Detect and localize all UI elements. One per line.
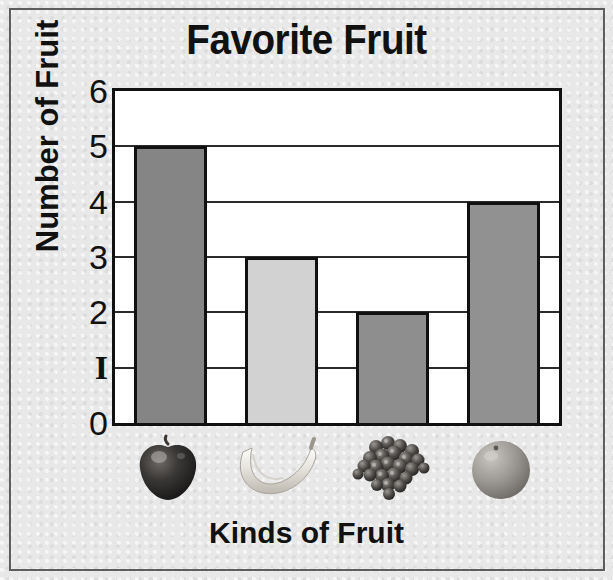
fruit-icon-cell-apple — [112, 428, 223, 508]
banana-icon — [231, 436, 327, 500]
fruit-icon-cell-grapes — [334, 428, 445, 508]
bar-orange — [467, 202, 541, 423]
fruit-icon-cell-banana — [223, 428, 334, 508]
orange-icon — [465, 432, 537, 504]
bar-chart-figure: Favorite Fruit Number of Fruit 65432I0 — [0, 0, 613, 580]
bar-grapes — [356, 312, 430, 423]
x-axis-title: Kinds of Fruit — [0, 516, 613, 550]
fruit-icon-cell-orange — [445, 428, 556, 508]
y-tick-label-2: 2 — [62, 295, 108, 329]
x-axis-fruit-icons — [112, 428, 562, 508]
y-axis-tick-labels: 65432I0 — [50, 88, 108, 426]
plot-area — [112, 88, 562, 426]
apple-icon — [132, 432, 204, 504]
grapes-icon — [342, 433, 438, 503]
y-tick-label-4: 4 — [62, 185, 108, 219]
y-tick-label-1: I — [62, 351, 108, 385]
y-tick-label-6: 6 — [62, 74, 108, 108]
plot-inner — [115, 91, 559, 423]
bar-banana — [245, 257, 319, 423]
y-tick-label-0: 0 — [62, 406, 108, 440]
y-tick-label-5: 5 — [62, 129, 108, 163]
y-tick-label-3: 3 — [62, 240, 108, 274]
chart-title: Favorite Fruit — [25, 16, 589, 64]
bar-apple — [134, 146, 208, 423]
